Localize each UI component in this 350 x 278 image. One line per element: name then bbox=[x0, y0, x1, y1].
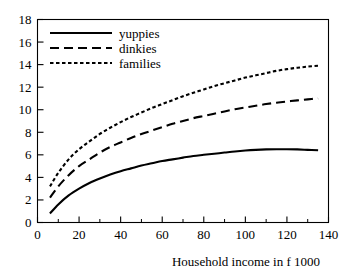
x-tick-label: 140 bbox=[319, 227, 339, 242]
y-tick-label: 18 bbox=[19, 12, 32, 27]
y-tick-label: 10 bbox=[19, 102, 32, 117]
y-tick-label: 8 bbox=[25, 125, 32, 140]
y-tick-label: 2 bbox=[25, 192, 32, 207]
series-line-families bbox=[50, 66, 318, 187]
y-tick-label: 14 bbox=[19, 57, 33, 72]
y-tick-label: 4 bbox=[25, 170, 32, 185]
x-axis-title: Household income in f 1000 bbox=[172, 254, 320, 269]
series-lines bbox=[50, 66, 318, 214]
legend-label-families: families bbox=[119, 56, 161, 71]
x-tick-label: 120 bbox=[277, 227, 297, 242]
y-axis-ticks bbox=[38, 20, 44, 223]
line-chart: 020406080100120140 024681012141618 yuppi… bbox=[0, 0, 350, 278]
x-tick-label: 60 bbox=[156, 227, 169, 242]
x-tick-label: 0 bbox=[34, 227, 41, 242]
chart-container: 020406080100120140 024681012141618 yuppi… bbox=[0, 0, 350, 278]
x-tick-label: 40 bbox=[114, 227, 127, 242]
x-axis-tick-labels: 020406080100120140 bbox=[34, 227, 338, 242]
x-tick-label: 80 bbox=[197, 227, 210, 242]
chart-legend: yuppiesdinkiesfamilies bbox=[50, 26, 161, 71]
y-axis-tick-labels: 024681012141618 bbox=[19, 12, 33, 230]
legend-label-yuppies: yuppies bbox=[119, 26, 159, 41]
legend-label-dinkies: dinkies bbox=[119, 41, 157, 56]
y-tick-label: 0 bbox=[25, 215, 32, 230]
y-tick-label: 16 bbox=[19, 35, 33, 50]
y-tick-label: 6 bbox=[25, 147, 32, 162]
y-tick-label: 12 bbox=[19, 80, 32, 95]
x-tick-label: 100 bbox=[236, 227, 256, 242]
x-tick-label: 20 bbox=[73, 227, 86, 242]
x-axis-ticks bbox=[38, 217, 329, 223]
